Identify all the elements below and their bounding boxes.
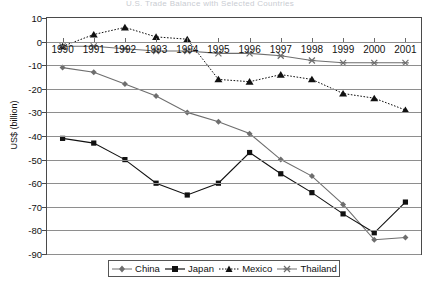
y-tick-mark	[42, 65, 46, 66]
y-tick-label: 0	[8, 36, 42, 47]
gridline	[47, 136, 421, 137]
series-thailand	[59, 43, 409, 66]
y-tick-label: -80	[8, 225, 42, 236]
series-mexico	[59, 24, 410, 113]
gridline	[47, 207, 421, 208]
legend-label-thailand: Thailand	[300, 263, 336, 274]
gridline	[47, 112, 421, 113]
x-tick-mark	[250, 38, 251, 42]
x-tick-mark	[281, 38, 282, 42]
x-tick-mark	[374, 38, 375, 42]
legend-label-china: China	[135, 263, 160, 274]
x-tick-mark	[156, 38, 157, 42]
y-tick-mark	[42, 112, 46, 113]
x-tick-label: 2001	[394, 44, 416, 55]
gridline	[47, 230, 421, 231]
y-tick-label: -40	[8, 131, 42, 142]
chart-legend: China Japan Mexico Thailand	[108, 260, 340, 277]
y-tick-label: -60	[8, 178, 42, 189]
x-tick-label: 1998	[301, 44, 323, 55]
chart-container: U.S. Trade Balance with Selected Countri…	[0, 0, 445, 281]
gridline	[47, 254, 421, 255]
y-axis-title: US$ (billion)	[9, 85, 19, 165]
legend-item-japan[interactable]: Japan	[164, 263, 214, 274]
chart-title: U.S. Trade Balance with Selected Countri…	[60, 0, 360, 11]
y-tick-label: 10	[8, 13, 42, 24]
y-tick-mark	[42, 18, 46, 19]
legend-marker-mexico-icon	[218, 264, 240, 274]
x-tick-label: 1994	[176, 44, 198, 55]
x-tick-mark	[218, 38, 219, 42]
legend-item-china[interactable]: China	[111, 263, 160, 274]
y-tick-mark	[42, 42, 46, 43]
x-tick-label: 1992	[114, 44, 136, 55]
y-tick-mark	[42, 207, 46, 208]
x-tick-mark	[405, 38, 406, 42]
x-tick-mark	[187, 38, 188, 42]
gridline	[47, 160, 421, 161]
x-tick-mark	[343, 38, 344, 42]
x-tick-label: 1993	[145, 44, 167, 55]
x-tick-label: 1999	[332, 44, 354, 55]
x-tick-label: 1995	[207, 44, 229, 55]
gridline	[47, 42, 421, 43]
y-tick-label: -50	[8, 154, 42, 165]
y-tick-label: -30	[8, 107, 42, 118]
x-tick-label: 1996	[238, 44, 260, 55]
gridline	[47, 89, 421, 90]
x-tick-label: 1991	[83, 44, 105, 55]
y-tick-label: -70	[8, 201, 42, 212]
x-tick-label: 1990	[51, 44, 73, 55]
gridline	[47, 183, 421, 184]
gridline	[47, 65, 421, 66]
legend-marker-thailand-icon	[276, 264, 298, 274]
y-tick-mark	[42, 89, 46, 90]
x-tick-mark	[125, 38, 126, 42]
series-china	[60, 65, 409, 243]
legend-label-mexico: Mexico	[242, 263, 272, 274]
legend-label-japan: Japan	[188, 263, 214, 274]
y-tick-label: -10	[8, 60, 42, 71]
x-tick-label: 1997	[270, 44, 292, 55]
legend-item-thailand[interactable]: Thailand	[276, 263, 336, 274]
y-tick-mark	[42, 230, 46, 231]
x-tick-mark	[94, 38, 95, 42]
y-tick-mark	[42, 183, 46, 184]
y-tick-mark	[42, 136, 46, 137]
y-tick-label: -20	[8, 83, 42, 94]
legend-marker-japan-icon	[164, 264, 186, 274]
y-tick-mark	[42, 160, 46, 161]
legend-marker-china-icon	[111, 264, 133, 274]
series-japan	[60, 136, 408, 236]
y-tick-mark	[42, 254, 46, 255]
x-tick-mark	[312, 38, 313, 42]
x-tick-mark	[63, 38, 64, 42]
x-tick-label: 2000	[363, 44, 385, 55]
y-tick-label: -90	[8, 249, 42, 260]
legend-item-mexico[interactable]: Mexico	[218, 263, 272, 274]
